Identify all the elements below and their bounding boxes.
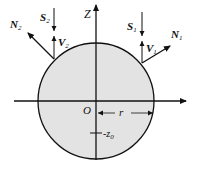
n1-label: N1 <box>170 28 182 42</box>
s2-label: S2 <box>40 11 50 25</box>
z-axis-label: Z <box>84 7 91 21</box>
s1-label: S1 <box>127 20 137 34</box>
v1-label: V1 <box>146 42 157 56</box>
origin-label: O <box>83 104 91 116</box>
n2-label: N2 <box>9 18 22 32</box>
normal-vector-n2 <box>28 33 54 59</box>
sphere-reflection-diagram: Z O r -z0 N2 S2 V2 N1 S1 V1 <box>0 0 198 171</box>
v2-label: V2 <box>58 36 69 50</box>
radius-label: r <box>119 106 124 118</box>
right-point-vectors: N1 S1 V1 <box>127 12 182 63</box>
left-point-vectors: N2 S2 V2 <box>9 8 69 59</box>
